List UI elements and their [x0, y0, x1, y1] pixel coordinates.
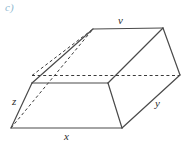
edge-front-right — [108, 83, 122, 128]
hidden-edge-left-diagonal — [11, 29, 93, 128]
edge-top-right-slant — [108, 28, 163, 83]
geometry-drawing — [0, 0, 192, 148]
edge-label-left: z — [12, 96, 16, 107]
edge-label-right: y — [155, 98, 160, 109]
edge-label-top: v — [118, 15, 123, 26]
geometry-figure: c) v y z x — [0, 0, 192, 148]
hidden-edge-back-left-vertical — [32, 29, 93, 76]
edge-right-lower — [122, 75, 180, 128]
edge-right-upper — [163, 28, 180, 75]
edge-label-bottom: x — [64, 131, 69, 142]
visible-edges-group — [11, 28, 180, 128]
edge-top-left-slant — [32, 29, 93, 83]
edge-top-back — [93, 28, 163, 29]
part-label: c) — [5, 2, 14, 13]
